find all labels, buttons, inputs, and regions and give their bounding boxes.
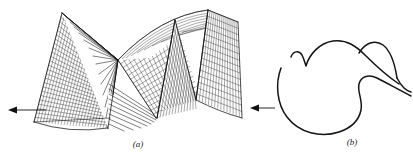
caption-a: (a) [118, 139, 158, 149]
ruled-surface-svg [0, 0, 290, 160]
caption-b: (b) [332, 137, 372, 147]
figure-plate: (a) (b) [0, 0, 413, 160]
panel-a-ruled-surface [0, 0, 290, 160]
